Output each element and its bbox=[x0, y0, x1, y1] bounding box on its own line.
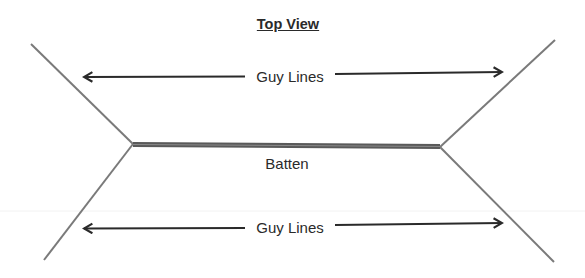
batten-label: Batten bbox=[259, 155, 314, 172]
bottom-arrow-right bbox=[335, 223, 502, 225]
guy-line-upper-left bbox=[31, 44, 133, 144]
top-guy-lines-label: Guy Lines bbox=[250, 68, 330, 85]
guy-line-upper-right bbox=[440, 40, 555, 147]
bottom-arrow-left bbox=[84, 228, 245, 229]
guy-line-lower-right bbox=[440, 147, 554, 262]
top-arrow-left bbox=[84, 77, 245, 78]
diagram-title: Top View bbox=[251, 16, 325, 32]
top-view-diagram bbox=[0, 0, 585, 278]
top-arrow-right bbox=[335, 72, 502, 74]
guy-line-lower-left bbox=[44, 144, 133, 260]
bottom-guy-lines-label: Guy Lines bbox=[250, 219, 330, 236]
